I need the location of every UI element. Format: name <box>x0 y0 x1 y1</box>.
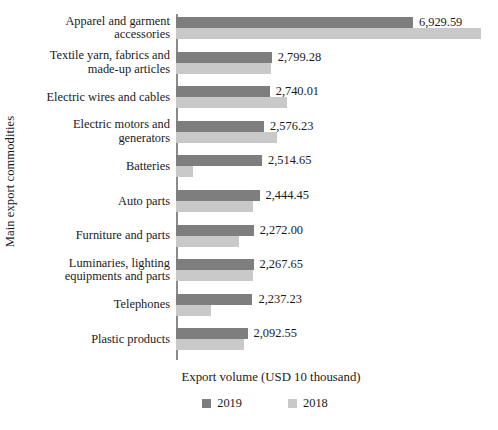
bar-2018 <box>176 132 277 143</box>
bar-value-label: 2,092.55 <box>254 328 297 339</box>
bars-column: 6,929.592,799.282,740.012,576.232,514.65… <box>176 14 498 360</box>
bar-group-2019: 2,272.00 <box>176 225 498 236</box>
bar-value-label: 2,272.00 <box>260 225 303 236</box>
legend-label: 2019 <box>217 396 242 411</box>
category-label-column: Apparel and garment accessoriesTextile y… <box>22 14 176 360</box>
bar-group-2018 <box>176 28 498 39</box>
bar-group-2018 <box>176 270 498 281</box>
bar-group-2019: 2,092.55 <box>176 328 498 339</box>
bar-group-2018 <box>176 97 498 108</box>
bar-value-label: 2,576.23 <box>270 121 313 132</box>
bar-2018 <box>176 236 239 247</box>
bar-2018 <box>176 63 271 74</box>
bar-group-2019: 2,267.65 <box>176 259 498 270</box>
category-label: Luminaries, lighting equipments and part… <box>22 257 170 284</box>
legend-item-2019[interactable]: 2019 <box>202 396 242 411</box>
bar-group-2019: 2,444.45 <box>176 190 498 201</box>
bar-2019 <box>176 190 260 201</box>
category-label: Plastic products <box>22 333 170 346</box>
bar-group-2019: 2,514.65 <box>176 155 498 166</box>
bar-2018 <box>176 201 253 212</box>
bar-group-2018 <box>176 132 498 143</box>
bar-group-2019: 2,740.01 <box>176 86 498 97</box>
bar-2019 <box>176 155 262 166</box>
plot-area: Apparel and garment accessoriesTextile y… <box>22 14 498 362</box>
category-label: Telephones <box>22 298 170 311</box>
bar-2019 <box>176 259 254 270</box>
bar-2019 <box>176 17 413 28</box>
bar-2019 <box>176 121 264 132</box>
bar-2018 <box>176 305 211 316</box>
bar-2018 <box>176 339 244 350</box>
legend-swatch-icon <box>288 399 297 408</box>
bar-group-2019: 2,799.28 <box>176 52 498 63</box>
bar-value-label: 2,799.28 <box>278 52 321 63</box>
category-label: Batteries <box>22 160 170 173</box>
bar-2019 <box>176 52 272 63</box>
bar-2018 <box>176 97 287 108</box>
x-axis-title-text: Export volume (USD 10 thousand) <box>137 370 360 384</box>
bar-value-label: 2,514.65 <box>268 155 311 166</box>
bar-group-2018 <box>176 166 498 177</box>
bar-value-label: 2,444.45 <box>266 190 309 201</box>
legend-item-2018[interactable]: 2018 <box>288 396 328 411</box>
bar-2019 <box>176 225 254 236</box>
bar-group-2018 <box>176 305 498 316</box>
category-label: Textile yarn, fabrics and made-up articl… <box>22 49 170 76</box>
legend-swatch-icon <box>202 399 211 408</box>
x-axis-title: Export volume (USD 10 thousand) <box>0 370 498 385</box>
bar-group-2019: 2,576.23 <box>176 121 498 132</box>
bar-2019 <box>176 328 248 339</box>
bar-group-2019: 6,929.59 <box>176 17 498 28</box>
bar-2018 <box>176 270 253 281</box>
bar-2018 <box>176 166 193 177</box>
bar-group-2019: 2,237.23 <box>176 294 498 305</box>
bar-2018 <box>176 28 481 39</box>
bar-value-label: 2,740.01 <box>276 86 319 97</box>
category-label: Furniture and parts <box>22 229 170 242</box>
bar-value-label: 2,237.23 <box>258 294 301 305</box>
chart-legend: 20192018 <box>0 396 498 411</box>
bar-group-2018 <box>176 63 498 74</box>
bar-group-2018 <box>176 201 498 212</box>
category-label: Apparel and garment accessories <box>22 15 170 42</box>
bar-2019 <box>176 294 252 305</box>
bar-group-2018 <box>176 236 498 247</box>
bar-chart: Main export commodities Apparel and garm… <box>0 0 498 430</box>
bar-value-label: 2,267.65 <box>260 259 303 270</box>
bar-group-2018 <box>176 339 498 350</box>
bar-value-label: 6,929.59 <box>419 17 462 28</box>
legend-label: 2018 <box>303 396 328 411</box>
y-axis-title: Main export commodities <box>0 0 22 362</box>
category-label: Auto parts <box>22 195 170 208</box>
bar-2019 <box>176 86 270 97</box>
category-label: Electric wires and cables <box>22 91 170 104</box>
y-axis-title-text: Main export commodities <box>4 115 19 246</box>
category-label: Electric motors and generators <box>22 118 170 145</box>
